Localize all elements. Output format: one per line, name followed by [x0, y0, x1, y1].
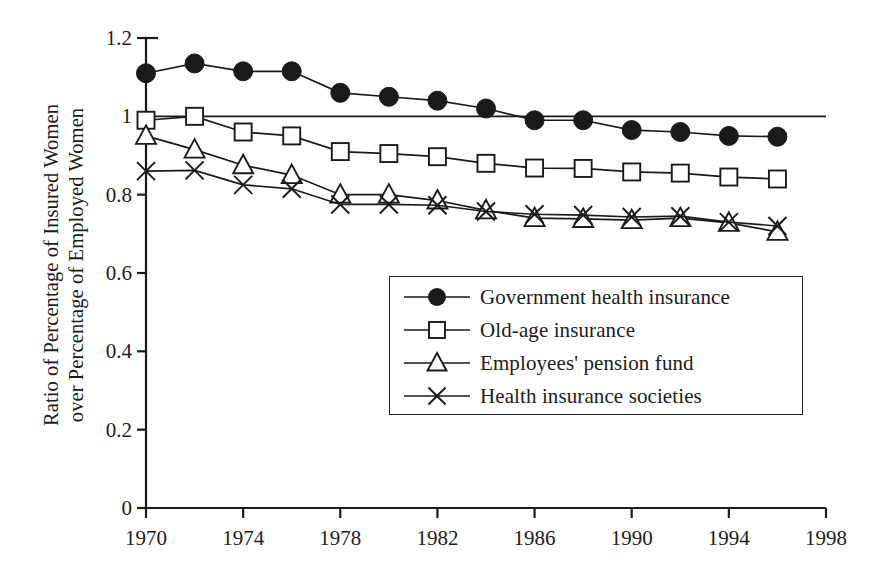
data-point-marker: [234, 62, 253, 81]
data-point-marker: [233, 155, 253, 174]
data-point-marker: [379, 87, 398, 106]
filled-circle-icon: [400, 282, 474, 312]
data-point-marker: [332, 143, 349, 160]
legend-item-2[interactable]: Employees' pension fund: [400, 347, 694, 379]
data-point-marker: [526, 160, 543, 177]
data-point-marker: [429, 148, 446, 165]
data-point-marker: [282, 62, 301, 81]
y-tick-label: 0.2: [70, 417, 132, 442]
open-triangle-icon: [400, 348, 474, 378]
data-point-marker: [477, 99, 496, 118]
x-tick-label: 1974: [222, 526, 264, 551]
data-point-marker: [720, 169, 737, 186]
x-tick-label: 1998: [805, 526, 847, 551]
x-tick-label: 1982: [416, 526, 458, 551]
data-point-marker: [768, 127, 787, 146]
data-point-marker: [573, 208, 593, 227]
x-tick-label: 1986: [514, 526, 556, 551]
data-point-marker: [672, 165, 689, 182]
chart-figure: Ratio of Percentage of Insured Women ove…: [0, 0, 883, 586]
legend-label-1: Old-age insurance: [474, 318, 635, 343]
y-tick-label: 0.6: [70, 261, 132, 286]
y-tick-label: 0.8: [70, 182, 132, 207]
y-tick-label: 0: [70, 496, 132, 521]
data-point-marker: [137, 64, 156, 83]
open-square-icon: [400, 315, 474, 345]
data-point-marker: [574, 111, 593, 130]
data-point-marker: [428, 91, 447, 110]
legend-item-0[interactable]: Government health insurance: [400, 281, 730, 313]
data-point-marker: [379, 184, 399, 203]
data-point-marker: [331, 83, 350, 102]
data-point-marker: [622, 121, 641, 140]
y-tick-label: 1: [70, 104, 132, 129]
data-point-marker: [622, 210, 642, 229]
legend: Government health insurance Old-age insu…: [389, 276, 803, 415]
data-point-marker: [623, 163, 640, 180]
cross-x-icon: [400, 381, 474, 411]
legend-item-3[interactable]: Health insurance societies: [400, 380, 702, 412]
y-axis-title-line1: Ratio of Percentage of Insured Women: [39, 5, 64, 525]
data-point-marker: [283, 127, 300, 144]
legend-label-3: Health insurance societies: [474, 384, 702, 409]
legend-label-0: Government health insurance: [474, 285, 730, 310]
y-tick-label: 0.4: [70, 339, 132, 364]
y-tick-label: 1.2: [70, 26, 132, 51]
x-tick-label: 1994: [708, 526, 750, 551]
data-point-marker: [719, 126, 738, 145]
x-tick-label: 1978: [319, 526, 361, 551]
data-point-marker: [671, 123, 690, 142]
data-point-marker: [186, 108, 203, 125]
x-tick-label: 1970: [125, 526, 167, 551]
data-point-marker: [769, 171, 786, 188]
x-tick-label: 1990: [611, 526, 653, 551]
data-point-marker: [575, 160, 592, 177]
legend-item-1[interactable]: Old-age insurance: [400, 314, 635, 346]
data-point-marker: [380, 145, 397, 162]
data-point-marker: [235, 124, 252, 141]
data-point-marker: [185, 54, 204, 73]
legend-label-2: Employees' pension fund: [474, 351, 694, 376]
data-point-marker: [525, 111, 544, 130]
data-point-marker: [330, 184, 350, 203]
data-point-marker: [478, 155, 495, 172]
